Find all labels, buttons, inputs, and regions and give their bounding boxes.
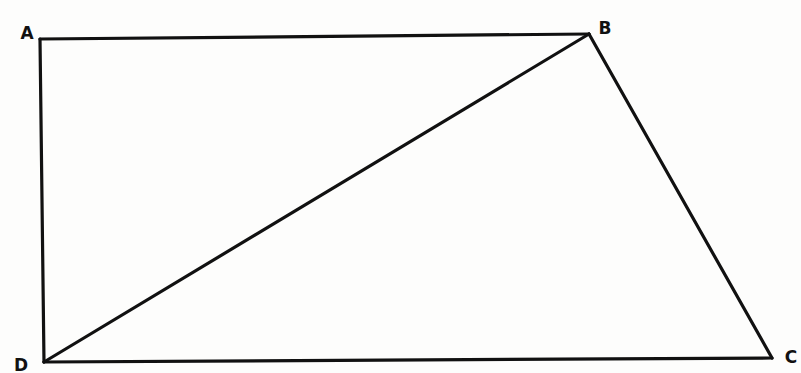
edge-bc [589,34,772,358]
vertex-label-a: A [20,25,33,42]
quadrilateral-diagram [0,0,801,373]
edge-cd [44,358,772,362]
vertex-label-c: C [785,349,797,366]
vertex-label-d: D [14,357,28,373]
vertex-label-b: B [599,20,612,37]
diagonal-db [44,34,589,362]
edge-ab [40,34,589,39]
edge-da [40,39,44,362]
